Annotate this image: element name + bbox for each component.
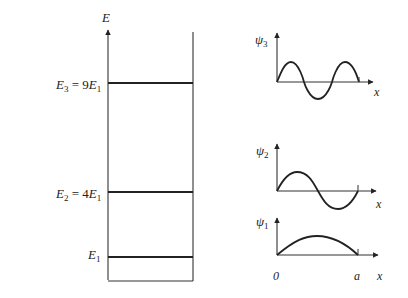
wavefunction-psi2-plot: ψ2 x [256, 143, 382, 211]
psi1-label: ψ1 [256, 214, 269, 231]
psi1-end-label: a [354, 269, 360, 283]
psi1-curve [277, 236, 358, 255]
psi3-label: ψ3 [255, 32, 268, 49]
energy-diagram: E E3 = 9E1 E2 = 4E1 E1 [55, 10, 193, 281]
psi3-curve [277, 62, 359, 99]
psi1-x-label: x [376, 269, 383, 283]
psi2-label: ψ2 [256, 143, 269, 160]
energy-level-e1-label: E1 [87, 247, 100, 264]
infinite-square-well-figure: E E3 = 9E1 E2 = 4E1 E1 ψ3 x ψ2 x ψ1 0 [0, 0, 408, 298]
psi2-x-label: x [375, 197, 382, 211]
energy-level-e2-label: E2 = 4E1 [55, 186, 101, 203]
energy-level-e3-label: E3 = 9E1 [55, 77, 101, 94]
psi1-origin-label: 0 [273, 269, 279, 283]
wavefunction-psi3-plot: ψ3 x [255, 32, 380, 99]
wavefunction-psi1-plot: ψ1 0 a x [256, 214, 383, 283]
energy-axis-label: E [101, 10, 110, 25]
psi3-x-label: x [373, 85, 380, 99]
